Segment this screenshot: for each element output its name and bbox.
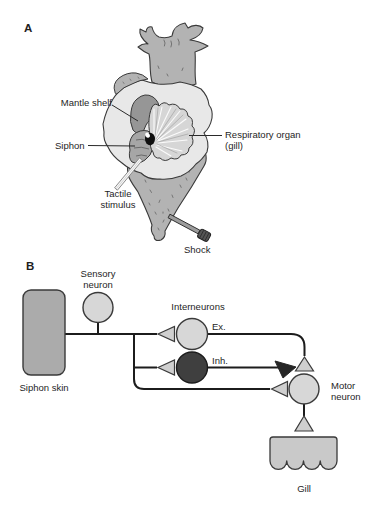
- siphon-label: Siphon: [55, 140, 85, 151]
- ex-to-motor-axon: [208, 334, 305, 356]
- gill-label: Gill: [284, 483, 324, 494]
- respiratory-organ-label: Respiratory organ (gill): [225, 129, 321, 151]
- ex-interneuron-circle: [177, 319, 208, 350]
- motor-neuron-label: Motor neuron: [331, 380, 375, 402]
- sensory-neuron-circle: [83, 293, 113, 323]
- panel-a-label: A: [24, 23, 32, 34]
- synapse-on-ex-interneuron: [158, 327, 175, 342]
- siphon-leader: [88, 146, 135, 147]
- siphon-skin-label: Siphon skin: [19, 382, 69, 393]
- aplysia-figure: A Mantle shelf Siphon Respiratory organ …: [0, 0, 375, 514]
- synapse-on-inh-interneuron: [158, 360, 175, 375]
- inh-interneuron-circle: [177, 352, 208, 383]
- interneurons-label: Interneurons: [157, 301, 239, 312]
- motor-neuron-circle: [289, 374, 319, 404]
- siphon-skin-box: [23, 290, 65, 375]
- shock-label: Shock: [184, 244, 210, 255]
- aplysia-head: [138, 23, 208, 87]
- tactile-stimulus-label: Tactile stimulus: [88, 188, 148, 210]
- sensory-neuron-label: Sensory neuron: [73, 268, 123, 290]
- ex-label: Ex.: [212, 321, 226, 332]
- motor-synapse-on-gill: [295, 416, 313, 431]
- panel-b-label: B: [26, 261, 34, 272]
- direct-synapse-on-motor: [272, 382, 288, 397]
- mantle-shelf-label: Mantle shelf: [52, 97, 112, 108]
- inh-label: Inh.: [212, 355, 228, 366]
- branch-to-inh: [134, 334, 157, 368]
- gill-shape: [270, 437, 337, 469]
- shock-electrode: [168, 214, 211, 242]
- inh-synapse-on-motor: [275, 361, 296, 378]
- ex-synapse-on-motor: [296, 357, 314, 371]
